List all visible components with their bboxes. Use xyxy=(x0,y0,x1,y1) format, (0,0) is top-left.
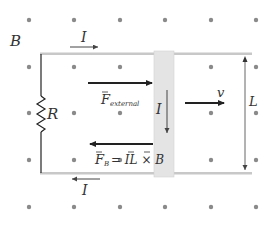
bottom-rail xyxy=(40,172,252,175)
length-label: L xyxy=(248,94,258,109)
sliding-bar-diagram: B I I I R v L F external F B = IL × B xyxy=(0,0,275,227)
external-force-label: F external xyxy=(100,92,139,108)
current-bottom-label: I xyxy=(81,182,88,198)
svg-text:B: B xyxy=(103,160,109,168)
velocity-label: v xyxy=(217,85,225,100)
current-top-label: I xyxy=(80,29,87,45)
resistor-circuit xyxy=(37,54,45,173)
current-bar-label: I xyxy=(155,101,162,117)
resistor-label: R xyxy=(46,105,58,123)
length-dimension xyxy=(243,56,248,170)
svg-text:= IL × B: = IL × B xyxy=(111,153,164,167)
top-rail xyxy=(40,53,252,56)
field-label: B xyxy=(9,32,21,50)
svg-text:external: external xyxy=(110,100,139,108)
magnetic-field-dots xyxy=(27,18,258,209)
magnetic-force-label: F B = IL × B xyxy=(94,152,164,168)
